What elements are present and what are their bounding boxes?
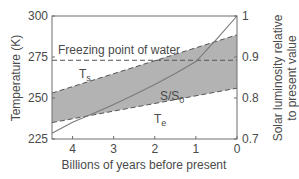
chart-svg: 300275250225 10.90.80.7 43210 Freezing p… [0,0,299,179]
y-tick-label: 275 [28,50,48,64]
y2-tick-label: 1 [242,9,249,23]
y-tick-label: 250 [28,91,48,105]
ts-label: Ts [79,67,91,83]
x-tick-label: 0 [234,142,241,156]
x-tick-label: 2 [151,142,158,156]
x-tick-label: 4 [69,142,76,156]
x-tick-label: 1 [193,142,200,156]
x-tick-label: 3 [110,142,117,156]
y2-tick-label: 0.7 [242,132,259,146]
y2-tick-label: 0.9 [242,50,259,64]
y-axis-label: Temperature (K) [9,35,23,122]
y2-axis-label-line1: Solar luminosity relative [271,14,285,141]
y-tick-label: 225 [28,132,48,146]
y-tick-label: 300 [28,9,48,23]
y2-tick-label: 0.8 [242,91,259,105]
y2-axis-label-line2: to present value [285,35,299,121]
y-axis-ticks: 300275250225 [28,9,55,146]
y2-axis-ticks: 10.90.80.7 [234,9,259,146]
chart-container: 300275250225 10.90.80.7 43210 Freezing p… [0,0,299,179]
x-axis-label: Billions of years before present [62,158,227,172]
freezing-point-label: Freezing point of water [58,43,180,57]
te-label: Te [154,112,166,128]
